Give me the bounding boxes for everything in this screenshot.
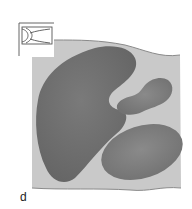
cross-section-diagram bbox=[0, 0, 192, 209]
figure-panel: d bbox=[0, 0, 192, 209]
cross-section-orientation-icon bbox=[19, 23, 54, 56]
panel-label: d bbox=[20, 190, 27, 204]
